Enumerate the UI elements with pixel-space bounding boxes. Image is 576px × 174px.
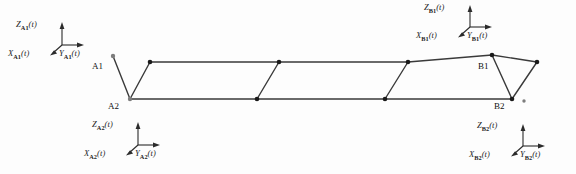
node-b2-marker	[522, 99, 525, 102]
frame-a1-y-arrowhead	[77, 43, 84, 48]
node-bm1	[255, 97, 260, 102]
node-a1	[111, 54, 115, 58]
structure-edges	[113, 55, 537, 99]
node-b1	[490, 53, 495, 58]
structure-nodes	[111, 53, 540, 103]
frame-b1-x-label: XB1(t)	[416, 31, 437, 42]
frame-b2-z-arrowhead	[521, 124, 526, 131]
frame-b2-y-arrowhead	[538, 144, 545, 149]
edge-t4-b1	[492, 55, 537, 62]
frame-b1-z-arrowhead	[468, 5, 473, 12]
frame-b1-y-arrowhead	[485, 25, 492, 30]
node-label-a2: A2	[108, 102, 119, 111]
frame-a1-z-label: ZA1(t)	[16, 20, 37, 31]
edge-b1-b2	[492, 55, 512, 99]
edge-bm2-t3	[385, 62, 408, 99]
node-t3	[406, 60, 411, 65]
frame-a2-z-label: ZA2(t)	[92, 120, 113, 131]
edge-a1-a2	[113, 56, 130, 99]
edge-bm1-t2	[257, 62, 279, 99]
node-t1	[148, 60, 153, 65]
node-t4	[535, 60, 540, 65]
node-label-b2: B2	[494, 102, 505, 111]
frame-a1-x-label: XA1(t)	[8, 49, 29, 60]
frame-a1-y-label: YA1(t)	[59, 49, 80, 60]
frame-a1-z-arrowhead	[60, 22, 65, 29]
edge-a2-t1	[130, 62, 150, 99]
frame-a2-y-label: YA2(t)	[135, 149, 156, 160]
frame-b1-z-label: ZB1(t)	[424, 3, 445, 14]
diagram-figure: ZA1(t) XA1(t) YA1(t) ZA2(t) XA2(t) YA2(t…	[0, 0, 576, 174]
frame-b1-y-label: YB1(t)	[467, 31, 488, 42]
frame-b2-z-label: ZB2(t)	[477, 121, 498, 132]
node-a2	[128, 97, 132, 101]
edge-b2-t4	[512, 62, 537, 99]
node-label-b1: B1	[478, 62, 489, 71]
frame-a2-y-arrowhead	[153, 143, 160, 148]
frame-a2-x-label: XA2(t)	[84, 149, 105, 160]
frame-b2-y-label: YB2(t)	[520, 150, 541, 161]
node-t2	[277, 60, 282, 65]
node-b2	[510, 97, 515, 102]
frame-b2-x-label: XB2(t)	[469, 150, 490, 161]
node-label-a1: A1	[92, 62, 103, 71]
frame-a2-z-arrowhead	[136, 122, 141, 129]
node-bm2	[383, 97, 388, 102]
